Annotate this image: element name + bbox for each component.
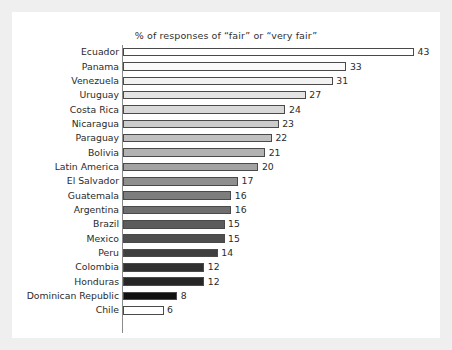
bar [123,206,231,215]
bar-row: Paraguay22 [12,131,440,145]
bar-row: Venezuela31 [12,74,440,88]
category-label: Argentina [12,205,119,215]
category-label: Colombia [12,262,119,272]
bar [123,105,285,114]
bar [123,48,414,57]
bar [123,62,346,71]
bar-row: El Salvador17 [12,174,440,188]
bar-container: 16 [123,203,247,217]
bar [123,234,225,243]
chart-frame: % of responses of “fair” or “very fair” … [12,12,440,338]
bar-container: 24 [123,102,301,116]
chart-title: % of responses of “fair” or “very fair” [12,30,440,41]
bar-value-label: 24 [289,105,301,115]
bar-row: Mexico15 [12,231,440,245]
category-label: Bolivia [12,148,119,158]
bar-value-label: 27 [309,90,321,100]
chart-page: % of responses of “fair” or “very fair” … [0,0,452,350]
bar [123,277,204,286]
category-label: Costa Rica [12,105,119,115]
bar-row: Colombia12 [12,260,440,274]
bar-value-label: 12 [208,277,220,287]
bar [123,191,231,200]
bar-value-label: 31 [336,76,348,86]
bar [123,163,258,172]
bar-container: 27 [123,88,321,102]
bar-container: 21 [123,145,281,159]
bar-container: 6 [123,303,173,317]
bar-row: Bolivia21 [12,145,440,159]
bar-row: Costa Rica24 [12,102,440,116]
bar-row: Nicaragua23 [12,117,440,131]
bar-container: 31 [123,74,348,88]
bar-container: 17 [123,174,253,188]
bar [123,220,225,229]
bar-value-label: 6 [167,305,173,315]
bar-row: Uruguay27 [12,88,440,102]
bar-container: 15 [123,217,240,231]
bar-value-label: 43 [418,47,430,57]
category-label: Dominican Republic [12,291,119,301]
bar-container: 43 [123,45,429,59]
bar-value-label: 33 [350,62,362,72]
bar-container: 14 [123,246,233,260]
bar [123,120,279,129]
category-label: Chile [12,305,119,315]
bar-container: 15 [123,231,240,245]
bar-value-label: 20 [262,162,274,172]
bar-row: Honduras12 [12,275,440,289]
category-label: Ecuador [12,47,119,57]
plot-area: Ecuador43Panama33Venezuela31Uruguay27Cos… [12,45,440,335]
category-label: Brazil [12,219,119,229]
bar-row: Latin America20 [12,160,440,174]
category-label: Uruguay [12,90,119,100]
bar-container: 22 [123,131,287,145]
bar [123,306,164,315]
bar-value-label: 16 [235,191,247,201]
bar-row: Panama33 [12,59,440,73]
bar-row: Brazil15 [12,217,440,231]
bar-container: 8 [123,289,187,303]
bar [123,177,238,186]
bar-value-label: 22 [275,133,287,143]
bar-value-label: 8 [181,291,187,301]
bar [123,148,265,157]
bar-container: 12 [123,275,220,289]
bar-value-label: 21 [269,148,281,158]
bar-row: Dominican Republic8 [12,289,440,303]
bar-row: Guatemala16 [12,188,440,202]
bar-value-label: 12 [208,262,220,272]
bar-row: Peru14 [12,246,440,260]
bar-row: Argentina16 [12,203,440,217]
category-label: Panama [12,62,119,72]
bar-rows: Ecuador43Panama33Venezuela31Uruguay27Cos… [12,45,440,318]
bar [123,77,333,86]
bar-container: 12 [123,260,220,274]
bar-row: Chile6 [12,303,440,317]
bar-container: 20 [123,160,274,174]
category-label: Peru [12,248,119,258]
bar [123,263,204,272]
category-label: Honduras [12,277,119,287]
bar-container: 33 [123,59,362,73]
category-label: El Salvador [12,176,119,186]
category-label: Latin America [12,162,119,172]
category-label: Paraguay [12,133,119,143]
bar-row: Ecuador43 [12,45,440,59]
category-label: Venezuela [12,76,119,86]
bar-value-label: 17 [242,176,254,186]
bar [123,91,306,100]
bar-container: 23 [123,117,294,131]
bar [123,249,218,258]
bar [123,134,272,143]
bar [123,292,177,301]
bar-value-label: 15 [228,219,240,229]
bar-value-label: 14 [221,248,233,258]
bar-value-label: 16 [235,205,247,215]
bar-container: 16 [123,188,247,202]
category-label: Guatemala [12,191,119,201]
bar-value-label: 23 [282,119,294,129]
bar-value-label: 15 [228,234,240,244]
category-label: Mexico [12,234,119,244]
category-label: Nicaragua [12,119,119,129]
